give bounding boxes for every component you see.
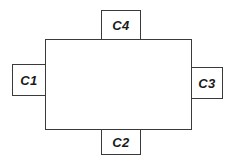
component-c4-box: C4	[101, 10, 141, 40]
component-c2-box: C2	[101, 129, 141, 155]
main-rectangle	[45, 39, 192, 130]
component-c1-box: C1	[12, 64, 46, 96]
component-c4-label: C4	[112, 18, 130, 33]
component-c3-label: C3	[198, 76, 216, 91]
component-c3-box: C3	[191, 67, 223, 99]
component-c1-label: C1	[20, 73, 38, 88]
component-c2-label: C2	[112, 135, 130, 150]
